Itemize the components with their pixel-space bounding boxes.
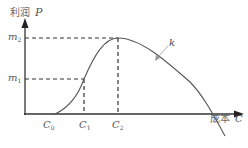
c-axis-label-text: 成本 (210, 113, 230, 124)
curve-label-k: k (169, 38, 175, 48)
diagram-canvas (0, 0, 248, 148)
tick-m2: m2 (8, 32, 21, 43)
profit-cost-diagram: 利润 P 成本 C m2 m1 C0 C1 C2 k (0, 0, 248, 148)
tick-c2: C2 (112, 120, 123, 131)
tick-c0: C0 (43, 120, 54, 131)
c-axis-label-var: C (235, 113, 243, 124)
p-axis-arrow-icon (22, 18, 29, 28)
p-axis-label: 利润 P (10, 3, 43, 19)
tick-m1: m1 (8, 73, 21, 84)
tick-c1: C1 (79, 120, 90, 131)
c-axis-label: 成本 C (210, 109, 243, 125)
p-axis-label-var: P (35, 6, 42, 19)
k-pointer (157, 46, 168, 58)
p-axis-label-text: 利润 (10, 7, 30, 18)
